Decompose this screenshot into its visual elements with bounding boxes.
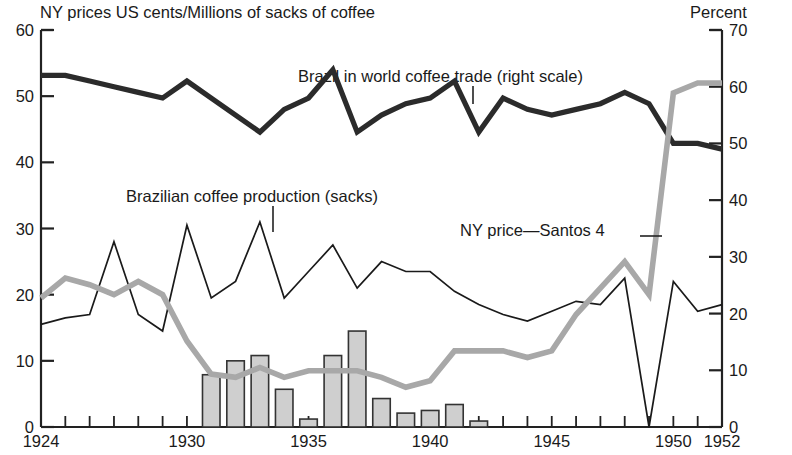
right-axis-label: 60: [729, 79, 763, 96]
bar: [227, 361, 245, 427]
x-axis-label: 1930: [152, 433, 222, 450]
bar: [324, 356, 342, 427]
chart-root: NY prices US cents/Millions of sacks of …: [0, 0, 792, 455]
left-axis-label: 10: [0, 353, 34, 370]
plot-area: [0, 0, 792, 455]
bar: [470, 421, 488, 427]
right-axis-ticks: [709, 30, 722, 427]
bar: [421, 410, 439, 427]
bar: [348, 331, 366, 427]
x-axis-label: 1940: [395, 433, 465, 450]
line-series: [41, 83, 722, 387]
bar: [275, 389, 293, 427]
left-axis-label: 50: [0, 88, 34, 105]
left-axis-label: 40: [0, 154, 34, 171]
right-axis-label: 50: [729, 135, 763, 152]
right-axis-label: 30: [729, 249, 763, 266]
left-axis-label: 60: [0, 22, 34, 39]
bar: [300, 419, 318, 427]
bar: [373, 399, 391, 427]
x-axis-label: 1935: [274, 433, 344, 450]
x-axis-label: 1924: [6, 433, 76, 450]
line-series-group: [41, 70, 722, 427]
x-axis-label: 1952: [687, 433, 757, 450]
left-axis-ticks: [41, 30, 54, 427]
bar-series-destroyed: [202, 331, 487, 427]
x-axis-label: 1945: [517, 433, 587, 450]
left-axis-label: 30: [0, 221, 34, 238]
left-axis-label: 20: [0, 287, 34, 304]
line-series: [41, 222, 722, 427]
bar: [202, 375, 220, 427]
right-axis-label: 20: [729, 306, 763, 323]
right-axis-label: 10: [729, 362, 763, 379]
right-axis-label: 70: [729, 22, 763, 39]
bar: [446, 405, 464, 427]
axis-lines: [41, 30, 722, 427]
line-series: [41, 70, 722, 149]
right-axis-label: 40: [729, 192, 763, 209]
bar: [397, 413, 415, 427]
